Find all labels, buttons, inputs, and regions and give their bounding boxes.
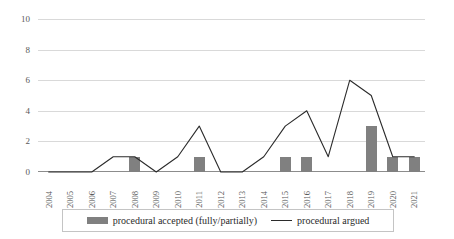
x-axis-tick-label: 2009 bbox=[151, 191, 161, 208]
x-axis-tick-label: 2020 bbox=[388, 191, 398, 208]
plot-area bbox=[38, 19, 425, 172]
x-axis-tick-label: 2008 bbox=[130, 191, 140, 208]
chart-container: 0246810 20042005200620072008200920102011… bbox=[0, 0, 454, 239]
y-axis-tick-label: 0 bbox=[26, 168, 31, 177]
line-swatch-icon bbox=[271, 220, 292, 221]
x-axis-tick-label: 2021 bbox=[409, 191, 419, 208]
legend-entry-line[interactable]: procedural argued bbox=[271, 216, 369, 226]
legend-label-bar: procedural accepted (fully/partially) bbox=[113, 216, 257, 226]
bar-swatch-icon bbox=[87, 217, 108, 224]
y-axis-tick-label: 6 bbox=[26, 76, 31, 85]
x-axis-tick-label: 2005 bbox=[65, 191, 75, 208]
x-axis-tick-label: 2015 bbox=[280, 191, 290, 208]
x-axis-tick-label: 2014 bbox=[259, 191, 269, 208]
y-axis-tick-label: 4 bbox=[26, 106, 31, 115]
x-axis-tick-label: 2006 bbox=[87, 191, 97, 208]
x-axis-tick-label: 2016 bbox=[302, 191, 312, 208]
x-axis-tick-label: 2010 bbox=[173, 191, 183, 208]
line-path bbox=[49, 80, 415, 172]
x-axis-tick-label: 2012 bbox=[216, 191, 226, 208]
y-axis-tick-label: 8 bbox=[26, 45, 31, 54]
x-axis-tick-label: 2017 bbox=[323, 191, 333, 208]
x-axis-tick-label: 2019 bbox=[366, 191, 376, 208]
chart-legend: procedural accepted (fully/partially) pr… bbox=[62, 209, 394, 232]
x-axis-tick-label: 2018 bbox=[345, 191, 355, 208]
line-series-layer bbox=[38, 19, 425, 172]
y-axis-tick-label: 2 bbox=[26, 137, 31, 146]
legend-entry-bar[interactable]: procedural accepted (fully/partially) bbox=[87, 216, 257, 226]
x-axis-tick-label: 2004 bbox=[44, 191, 54, 208]
x-axis-tick-label: 2013 bbox=[237, 191, 247, 208]
y-axis-labels: 0246810 bbox=[0, 19, 34, 172]
legend-label-line: procedural argued bbox=[297, 216, 369, 226]
x-axis-tick-label: 2007 bbox=[108, 191, 118, 208]
y-axis-tick-label: 10 bbox=[21, 15, 30, 24]
x-axis-tick-label: 2011 bbox=[194, 191, 204, 208]
x-axis-labels: 2004200520062007200820092010201120122013… bbox=[38, 174, 425, 208]
